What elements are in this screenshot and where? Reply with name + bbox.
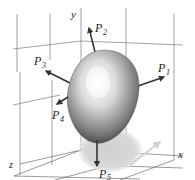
label-p2: P 2 bbox=[94, 21, 107, 37]
axis-label-z: z bbox=[8, 159, 13, 170]
vector-p4 bbox=[57, 97, 68, 104]
vector-p3 bbox=[46, 71, 70, 83]
label-p4: P 4 bbox=[51, 108, 64, 124]
svg-text:1: 1 bbox=[166, 68, 170, 77]
egg-surface bbox=[67, 50, 139, 143]
svg-text:5: 5 bbox=[107, 173, 111, 180]
label-p3: P 3 bbox=[33, 54, 46, 70]
svg-text:P: P bbox=[33, 54, 42, 68]
svg-text:P: P bbox=[51, 108, 60, 122]
svg-text:3: 3 bbox=[41, 61, 46, 70]
surface-diagram: y x z P 2 P 3 P 1 P 4 P 5 bbox=[0, 0, 195, 180]
svg-text:P: P bbox=[94, 21, 103, 35]
axis-label-x: x bbox=[177, 148, 183, 160]
svg-text:2: 2 bbox=[103, 28, 107, 37]
svg-text:P: P bbox=[98, 167, 107, 180]
label-p1: P 1 bbox=[157, 61, 170, 77]
svg-text:4: 4 bbox=[60, 115, 64, 124]
egg-highlight bbox=[86, 66, 110, 98]
axis-label-y: y bbox=[70, 8, 76, 20]
svg-text:P: P bbox=[157, 61, 166, 75]
vector-p1 bbox=[138, 77, 164, 86]
